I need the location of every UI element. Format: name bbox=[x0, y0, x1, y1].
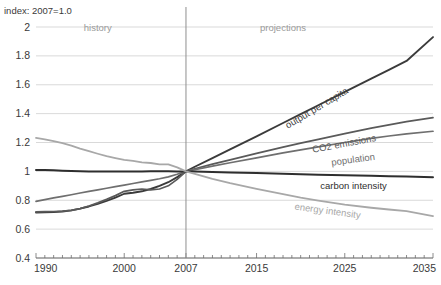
annotation-history: history bbox=[84, 22, 112, 33]
y-tick-label: 1.4 bbox=[15, 107, 30, 119]
series-label-0: output per capita bbox=[283, 85, 350, 131]
x-tick-label: 2015 bbox=[245, 262, 269, 274]
chart-title: index: 2007=1.0 bbox=[4, 5, 72, 16]
x-tick-label: 2025 bbox=[333, 262, 357, 274]
series-label-4: energy intensity bbox=[294, 201, 362, 221]
y-axis-tick-labels: 21.81.61.41.210.80.60.4 bbox=[15, 21, 30, 264]
y-tick-label: 0.8 bbox=[15, 194, 30, 206]
chart-container: 21.81.61.41.210.80.60.4 1990200020072015… bbox=[0, 0, 441, 285]
period-annotations-group: historyprojections bbox=[84, 22, 306, 33]
y-tick-label: 1 bbox=[24, 165, 30, 177]
series-line-3 bbox=[36, 170, 433, 177]
x-tick-label: 2000 bbox=[113, 262, 137, 274]
y-tick-label: 0.4 bbox=[15, 252, 30, 264]
y-tick-label: 2 bbox=[24, 21, 30, 33]
x-tick-label: 2035 bbox=[413, 262, 437, 274]
annotation-projections: projections bbox=[260, 22, 306, 33]
x-axis-tick-labels: 199020002007201520252035 bbox=[34, 262, 436, 274]
series-label-2: population bbox=[331, 151, 376, 168]
x-tick-label: 1990 bbox=[34, 262, 58, 274]
y-tick-label: 1.6 bbox=[15, 78, 30, 90]
x-tick-label: 2007 bbox=[174, 262, 198, 274]
y-tick-label: 1.8 bbox=[15, 49, 30, 61]
y-tick-label: 0.6 bbox=[15, 223, 30, 235]
line-chart: 21.81.61.41.210.80.60.4 1990200020072015… bbox=[0, 0, 441, 285]
series-label-3: carbon intensity bbox=[320, 180, 387, 191]
y-tick-label: 1.2 bbox=[15, 136, 30, 148]
x-axis bbox=[36, 253, 433, 258]
